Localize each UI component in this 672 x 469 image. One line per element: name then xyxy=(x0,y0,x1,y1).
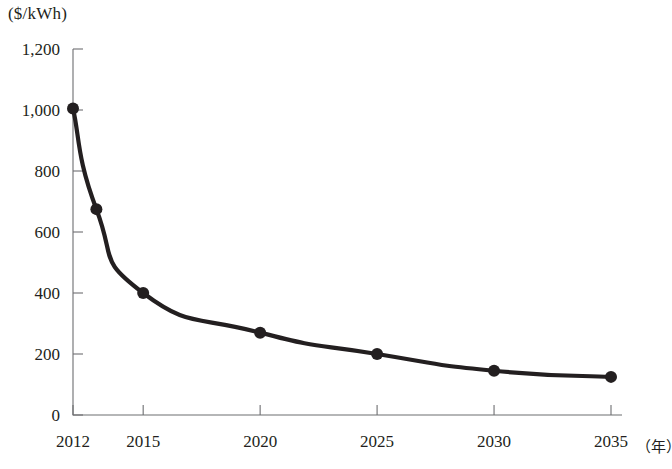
data-point-marker xyxy=(371,348,383,360)
data-point-marker xyxy=(488,365,500,377)
series-line-cost-per-kwh xyxy=(73,108,611,376)
axis-lines xyxy=(73,49,622,415)
data-point-marker xyxy=(67,102,79,114)
data-point-marker xyxy=(90,203,102,215)
series-markers xyxy=(67,102,617,382)
data-point-marker xyxy=(605,371,617,383)
chart-axes xyxy=(73,49,622,415)
data-point-marker xyxy=(137,287,149,299)
data-point-marker xyxy=(254,327,266,339)
plot-area xyxy=(0,0,672,469)
chart-tick-marks xyxy=(73,49,611,415)
line-chart: ($/kWh) （年） 02004006008001,0001,200 2012… xyxy=(0,0,672,469)
